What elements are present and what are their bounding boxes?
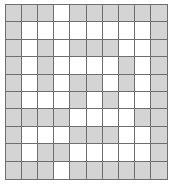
grid-cell-r7-c7[interactable] <box>103 109 119 126</box>
grid-cell-r7-c5[interactable] <box>70 109 86 126</box>
grid-cell-r8-c1[interactable] <box>6 127 22 144</box>
grid-cell-r7-c2[interactable] <box>22 109 38 126</box>
grid-cell-r7-c4[interactable] <box>54 109 70 126</box>
grid-cell-r6-c8[interactable] <box>119 92 135 109</box>
grid-cell-r3-c10[interactable] <box>151 40 167 57</box>
grid-cell-r5-c7[interactable] <box>103 75 119 92</box>
grid-cell-r8-c3[interactable] <box>38 127 54 144</box>
grid-cell-r9-c3[interactable] <box>38 144 54 161</box>
grid-cell-r1-c5[interactable] <box>70 5 86 22</box>
grid-cell-r10-c3[interactable] <box>38 162 54 179</box>
grid-cell-r2-c9[interactable] <box>135 22 151 39</box>
grid-cell-r9-c5[interactable] <box>70 144 86 161</box>
grid-cell-r7-c1[interactable] <box>6 109 22 126</box>
grid-cell-r3-c6[interactable] <box>87 40 103 57</box>
grid-cell-r5-c9[interactable] <box>135 75 151 92</box>
grid-cell-r2-c6[interactable] <box>87 22 103 39</box>
grid-cell-r5-c10[interactable] <box>151 75 167 92</box>
grid-cell-r8-c6[interactable] <box>87 127 103 144</box>
grid-cell-r1-c10[interactable] <box>151 5 167 22</box>
grid-cell-r9-c4[interactable] <box>54 144 70 161</box>
grid-cell-r3-c1[interactable] <box>6 40 22 57</box>
grid-cell-r10-c2[interactable] <box>22 162 38 179</box>
grid-cell-r4-c9[interactable] <box>135 57 151 74</box>
grid-cell-r3-c5[interactable] <box>70 40 86 57</box>
grid-cell-r10-c9[interactable] <box>135 162 151 179</box>
grid-cell-r5-c8[interactable] <box>119 75 135 92</box>
grid-cell-r2-c5[interactable] <box>70 22 86 39</box>
grid-cell-r10-c8[interactable] <box>119 162 135 179</box>
grid-cell-r1-c2[interactable] <box>22 5 38 22</box>
grid-cell-r3-c4[interactable] <box>54 40 70 57</box>
grid-cell-r2-c10[interactable] <box>151 22 167 39</box>
grid-cell-r10-c4[interactable] <box>54 162 70 179</box>
grid-cell-r4-c8[interactable] <box>119 57 135 74</box>
grid-cell-r9-c6[interactable] <box>87 144 103 161</box>
grid-cell-r2-c4[interactable] <box>54 22 70 39</box>
grid-cell-r4-c10[interactable] <box>151 57 167 74</box>
grid-cell-r2-c7[interactable] <box>103 22 119 39</box>
grid-cell-r5-c3[interactable] <box>38 75 54 92</box>
grid-cell-r10-c6[interactable] <box>87 162 103 179</box>
grid-cell-r5-c5[interactable] <box>70 75 86 92</box>
grid-cell-r5-c6[interactable] <box>87 75 103 92</box>
grid-cell-r1-c9[interactable] <box>135 5 151 22</box>
grid-cell-r8-c5[interactable] <box>70 127 86 144</box>
grid-cell-r4-c3[interactable] <box>38 57 54 74</box>
grid-cell-r9-c7[interactable] <box>103 144 119 161</box>
grid-cell-r1-c1[interactable] <box>6 5 22 22</box>
grid-cell-r8-c7[interactable] <box>103 127 119 144</box>
grid-cell-r7-c8[interactable] <box>119 109 135 126</box>
grid-cell-r7-c10[interactable] <box>151 109 167 126</box>
grid-cell-r10-c10[interactable] <box>151 162 167 179</box>
grid-cell-r6-c1[interactable] <box>6 92 22 109</box>
grid-cell-r3-c8[interactable] <box>119 40 135 57</box>
grid-cell-r1-c3[interactable] <box>38 5 54 22</box>
grid-cell-r4-c1[interactable] <box>6 57 22 74</box>
grid-cell-r9-c8[interactable] <box>119 144 135 161</box>
grid-cell-r1-c4[interactable] <box>54 5 70 22</box>
grid-cell-r5-c1[interactable] <box>6 75 22 92</box>
grid-cell-r8-c8[interactable] <box>119 127 135 144</box>
grid-cell-r6-c10[interactable] <box>151 92 167 109</box>
grid-cell-r6-c3[interactable] <box>38 92 54 109</box>
grid-cell-r10-c1[interactable] <box>6 162 22 179</box>
grid-cell-r6-c7[interactable] <box>103 92 119 109</box>
grid-cell-r6-c9[interactable] <box>135 92 151 109</box>
grid-cell-r5-c4[interactable] <box>54 75 70 92</box>
grid-cell-r9-c10[interactable] <box>151 144 167 161</box>
grid-cell-r7-c3[interactable] <box>38 109 54 126</box>
grid-cell-r4-c7[interactable] <box>103 57 119 74</box>
grid-cell-r3-c9[interactable] <box>135 40 151 57</box>
grid-cell-r8-c2[interactable] <box>22 127 38 144</box>
grid-cell-r6-c5[interactable] <box>70 92 86 109</box>
grid-cell-r3-c3[interactable] <box>38 40 54 57</box>
grid-cell-r2-c1[interactable] <box>6 22 22 39</box>
grid-cell-r4-c5[interactable] <box>70 57 86 74</box>
grid-cell-r7-c9[interactable] <box>135 109 151 126</box>
grid-cell-r9-c1[interactable] <box>6 144 22 161</box>
grid-cell-r1-c7[interactable] <box>103 5 119 22</box>
grid-cell-r10-c7[interactable] <box>103 162 119 179</box>
grid-cell-r1-c6[interactable] <box>87 5 103 22</box>
grid-cell-r4-c2[interactable] <box>22 57 38 74</box>
grid-cell-r8-c9[interactable] <box>135 127 151 144</box>
grid-cell-r5-c2[interactable] <box>22 75 38 92</box>
grid-cell-r2-c2[interactable] <box>22 22 38 39</box>
grid-cell-r9-c9[interactable] <box>135 144 151 161</box>
grid-cell-r2-c8[interactable] <box>119 22 135 39</box>
grid-cell-r4-c6[interactable] <box>87 57 103 74</box>
grid-cell-r7-c6[interactable] <box>87 109 103 126</box>
grid-cell-r6-c4[interactable] <box>54 92 70 109</box>
grid-cell-r3-c7[interactable] <box>103 40 119 57</box>
grid-cell-r10-c5[interactable] <box>70 162 86 179</box>
grid-cell-r6-c2[interactable] <box>22 92 38 109</box>
grid-cell-r8-c10[interactable] <box>151 127 167 144</box>
grid-cell-r6-c6[interactable] <box>87 92 103 109</box>
grid-cell-r2-c3[interactable] <box>38 22 54 39</box>
grid-cell-r1-c8[interactable] <box>119 5 135 22</box>
grid-cell-r8-c4[interactable] <box>54 127 70 144</box>
grid-cell-r3-c2[interactable] <box>22 40 38 57</box>
grid-cell-r4-c4[interactable] <box>54 57 70 74</box>
grid-cell-r9-c2[interactable] <box>22 144 38 161</box>
